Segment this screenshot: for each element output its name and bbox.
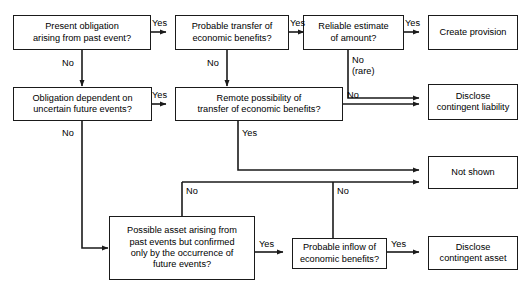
edge-obligation-to-possible-asset — [82, 121, 108, 248]
node-disclose-contingent-liability-label: Disclose contingent liability — [437, 91, 510, 114]
node-possible-asset[interactable]: Possible asset arising from past events … — [109, 216, 255, 280]
node-not-shown-label: Not shown — [451, 167, 494, 178]
node-disclose-contingent-asset-label: Disclose contingent asset — [440, 242, 507, 265]
edge-label-no-obligation-possible-asset: No — [62, 128, 74, 139]
edge-label-no-remote-liability: No — [347, 90, 359, 101]
node-probable-inflow-label: Probable inflow of economic benefits? — [300, 242, 379, 265]
node-disclose-contingent-liability[interactable]: Disclose contingent liability — [428, 84, 518, 120]
edge-label-yes-probable-reliable: Yes — [290, 18, 305, 29]
node-probable-transfer[interactable]: Probable transfer of economic benefits? — [175, 15, 289, 50]
node-possible-asset-label: Possible asset arising from past events … — [127, 225, 237, 271]
flowchart-diagram: Present obligation arising from past eve… — [0, 0, 529, 291]
edge-remote-to-not-shown — [238, 121, 419, 170]
node-probable-transfer-label: Probable transfer of economic benefits? — [192, 21, 273, 44]
edge-label-no-probable-remote: No — [207, 58, 219, 69]
node-reliable-estimate-label: Reliable estimate of amount? — [318, 21, 388, 44]
edge-label-no-rare-reliable-liability: No (rare) — [352, 55, 374, 76]
node-reliable-estimate[interactable]: Reliable estimate of amount? — [303, 15, 404, 50]
edge-label-yes-reliable-provision: Yes — [405, 18, 420, 29]
edge-label-no-branch-possible-asset: No — [186, 186, 198, 197]
node-remote-possibility[interactable]: Remote possibility of transfer of econom… — [175, 87, 343, 121]
node-not-shown[interactable]: Not shown — [428, 156, 518, 189]
node-create-provision[interactable]: Create provision — [428, 15, 518, 50]
edge-label-no-branch-probable-inflow: No — [337, 186, 349, 197]
node-create-provision-label: Create provision — [440, 27, 507, 38]
node-disclose-contingent-asset[interactable]: Disclose contingent asset — [428, 236, 518, 270]
node-obligation-dependent-label: Obligation dependent on uncertain future… — [32, 93, 132, 116]
node-present-obligation-label: Present obligation arising from past eve… — [33, 21, 131, 44]
edge-label-yes-obligation-remote: Yes — [152, 90, 167, 101]
edge-label-yes-present-probable: Yes — [152, 18, 167, 29]
node-obligation-dependent[interactable]: Obligation dependent on uncertain future… — [13, 87, 152, 121]
node-probable-inflow[interactable]: Probable inflow of economic benefits? — [292, 238, 387, 269]
edge-label-no-present-obligation: No — [62, 58, 74, 69]
edge-label-yes-remote-not-shown: Yes — [242, 128, 257, 139]
node-present-obligation[interactable]: Present obligation arising from past eve… — [13, 15, 151, 50]
edge-label-yes-inflow-contingent-asset: Yes — [391, 239, 406, 250]
edge-label-yes-possible-asset-inflow: Yes — [259, 239, 274, 250]
node-remote-possibility-label: Remote possibility of transfer of econom… — [197, 93, 320, 116]
